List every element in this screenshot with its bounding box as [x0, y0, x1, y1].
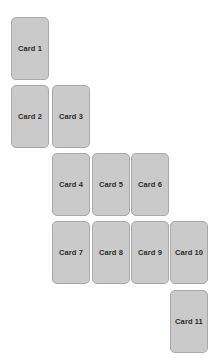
card[interactable]: Card 5	[92, 153, 130, 216]
card-label: Card 6	[138, 181, 162, 189]
card[interactable]: Card 1	[11, 17, 49, 80]
card[interactable]: Card 9	[131, 221, 169, 284]
card[interactable]: Card 8	[92, 221, 130, 284]
card-label: Card 2	[18, 113, 42, 121]
card-label: Card 11	[175, 318, 203, 326]
card[interactable]: Card 10	[170, 221, 208, 284]
card-label: Card 8	[99, 249, 123, 257]
card-label: Card 3	[59, 113, 83, 121]
card[interactable]: Card 6	[131, 153, 169, 216]
card-cascade-board: Card 1Card 2Card 3Card 4Card 5Card 6Card…	[0, 0, 221, 358]
card[interactable]: Card 11	[170, 290, 208, 353]
card-label: Card 1	[18, 45, 42, 53]
card-label: Card 10	[175, 249, 203, 257]
card-label: Card 7	[59, 249, 83, 257]
card[interactable]: Card 4	[52, 153, 90, 216]
card-label: Card 5	[99, 181, 123, 189]
card[interactable]: Card 3	[52, 85, 90, 148]
card[interactable]: Card 7	[52, 221, 90, 284]
card-label: Card 9	[138, 249, 162, 257]
card-label: Card 4	[59, 181, 83, 189]
card[interactable]: Card 2	[11, 85, 49, 148]
